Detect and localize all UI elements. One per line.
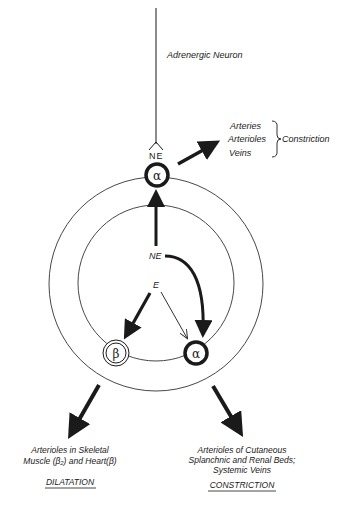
vessel-effect: Constriction xyxy=(282,134,330,144)
constriction-arrow xyxy=(213,386,239,430)
neuron-label: Adrenergic Neuron xyxy=(166,50,243,60)
arrow-to-vessels xyxy=(178,144,214,164)
left-outcome-line2: Muscle (β₂) and Heart(β) xyxy=(23,456,116,466)
vessel-arteries: Arteries xyxy=(229,121,262,131)
dilatation-label: DILATATION xyxy=(46,477,95,487)
right-outcome-line2: Splanchnic and Renal Beds; xyxy=(189,455,296,465)
vessel-brace xyxy=(272,121,281,157)
dilatation-arrow xyxy=(72,385,99,432)
e-to-alpha-arrow xyxy=(161,292,187,338)
vessel-veins: Veins xyxy=(229,148,252,158)
right-outcome-line1: Arterioles of Cutaneous xyxy=(197,445,288,455)
left-outcome-line1: Arterioles in Skeletal xyxy=(30,445,110,455)
constriction-label: CONSTRICTION xyxy=(210,480,276,490)
top-alpha-symbol: α xyxy=(153,169,161,183)
right-outcome-line3: Systemic Veins xyxy=(213,465,272,475)
ne-to-alpha-curved-arrow xyxy=(165,256,203,332)
vessel-arterioles: Arterioles xyxy=(227,134,267,144)
beta-symbol: β xyxy=(113,347,120,361)
adrenergic-diagram: Adrenergic Neuron NE α Arteries Arteriol… xyxy=(0,0,348,507)
circulating-ne-label: NE xyxy=(149,251,162,261)
e-to-beta-arrow xyxy=(127,293,150,334)
circulating-e-label: E xyxy=(153,280,160,290)
synapse-ne-label: NE xyxy=(149,151,164,161)
bottom-alpha-symbol: α xyxy=(192,347,200,361)
